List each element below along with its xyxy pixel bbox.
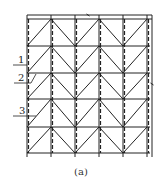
diagonal-brace xyxy=(123,46,147,73)
diagonal-brace xyxy=(75,99,99,127)
diagonal-brace xyxy=(51,19,75,46)
diagonal-brace xyxy=(99,73,123,99)
diagonal-brace xyxy=(27,73,51,99)
diagonal-brace xyxy=(27,127,51,153)
diagonal-brace xyxy=(51,127,75,153)
diagonal-brace xyxy=(99,46,123,73)
truss-grid-diagram: 123 xyxy=(0,0,164,189)
diagonal-brace xyxy=(27,19,51,46)
diagonal-brace xyxy=(123,99,147,127)
diagonal-brace xyxy=(75,73,99,99)
diagonal-brace xyxy=(123,19,147,46)
diagonal-brace xyxy=(51,73,75,99)
diagonal-brace xyxy=(75,19,99,46)
diagonal-brace xyxy=(123,127,147,153)
diagonal-brace xyxy=(75,46,99,73)
diagonal-brace xyxy=(27,46,51,73)
diagonal-brace xyxy=(51,99,75,127)
diagonal-brace xyxy=(99,127,123,153)
diagonal-brace xyxy=(99,99,123,127)
callout-label-3: 3 xyxy=(19,105,25,116)
diagonal-brace xyxy=(99,19,123,46)
figure-caption: (a) xyxy=(70,166,92,177)
diagonal-brace xyxy=(51,46,75,73)
diagonal-brace xyxy=(123,73,147,99)
callout-label-1: 1 xyxy=(18,54,24,65)
diagonal-brace xyxy=(27,99,51,127)
callout-label-2: 2 xyxy=(18,72,24,83)
diagonal-brace xyxy=(75,127,99,153)
